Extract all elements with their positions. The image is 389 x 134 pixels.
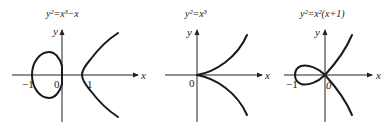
y-axis-label: y [186, 26, 192, 38]
cusp-lower-curve [197, 75, 247, 115]
panel-3-title: y²=x²(x+1) [299, 8, 345, 20]
x-axis-label: x [375, 69, 381, 81]
cusp-upper-curve [197, 35, 247, 75]
y-axis-label: y [52, 25, 58, 37]
node-lower-branch-curve [325, 75, 352, 115]
tick-label-0: 0 [189, 77, 195, 89]
x-axis-label: x [140, 69, 146, 81]
tick-label-0: 0 [54, 78, 60, 90]
panel-2: y²=x³ y 0 [165, 8, 262, 122]
y-axis-label: y [314, 26, 320, 38]
panel-2-title: y²=x³ [184, 8, 208, 19]
panel-1: y²=x³−x y x −1 0 1 [12, 8, 146, 122]
node-upper-branch-curve [325, 35, 352, 75]
panel-1-title: y²=x³−x [45, 8, 79, 19]
elliptic-curves-figure: y²=x³−x y x −1 0 1 y²=x³ y 0 x y²=x²(x+1… [0, 0, 389, 134]
panel-3: y²=x²(x+1) y x −1 0 [284, 8, 381, 122]
panel-2-x-axis-label: x [264, 69, 270, 81]
